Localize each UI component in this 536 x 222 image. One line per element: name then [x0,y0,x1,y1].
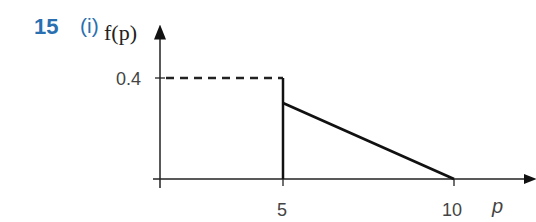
pdf-chart: f(p) 0.4 5 10 p [0,0,536,222]
x-tick-10: 10 [442,200,462,220]
x-axis-label: p [491,195,503,217]
y-tick-0.4: 0.4 [116,69,141,89]
y-axis-label: f(p) [104,20,137,45]
x-tick-5: 5 [277,200,287,220]
pdf-line [283,103,454,179]
